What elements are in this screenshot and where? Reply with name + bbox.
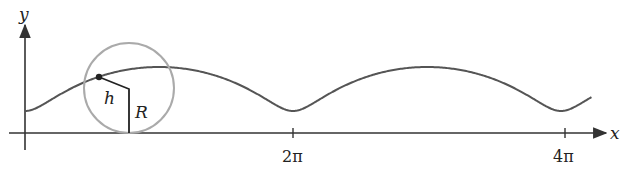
- trochoid-diagram: y x h R 2π 4π: [0, 0, 631, 173]
- h-label: h: [104, 88, 115, 108]
- r-label: R: [134, 102, 148, 122]
- tracing-point: [96, 74, 102, 80]
- y-axis-label: y: [18, 4, 29, 24]
- x-axis-label: x: [610, 123, 620, 143]
- tick-label-4pi: 4π: [553, 147, 574, 166]
- tick-label-2pi: 2π: [282, 147, 303, 166]
